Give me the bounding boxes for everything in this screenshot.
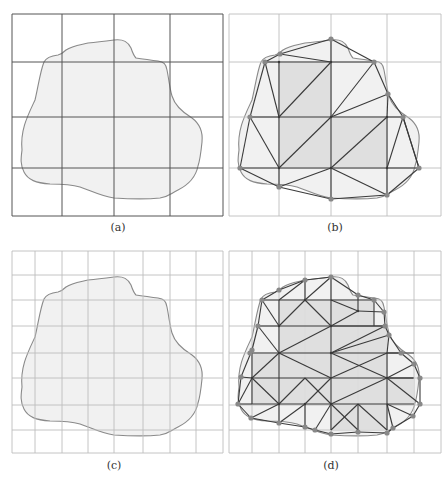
grid-node <box>278 325 280 327</box>
boundary-node <box>235 401 240 406</box>
boundary-node <box>276 184 281 189</box>
panel-c-quadtree-grid <box>12 251 223 453</box>
boundary-node <box>277 51 282 56</box>
boundary-node <box>417 375 422 380</box>
boundary-node <box>411 361 416 366</box>
boundary-node <box>302 424 307 429</box>
boundary-node <box>371 297 376 302</box>
boundary-node <box>371 59 376 64</box>
caption-a: (a) <box>110 221 125 234</box>
grid-node <box>251 377 253 379</box>
grid-node <box>330 116 332 118</box>
boundary-node <box>259 297 264 302</box>
panel-a-background-grid <box>12 14 223 216</box>
boundary-node <box>255 323 260 328</box>
domain-shape <box>21 277 202 436</box>
boundary-node <box>328 36 333 41</box>
boundary-node <box>312 427 317 432</box>
grid-node <box>278 167 280 169</box>
boundary-node <box>417 401 422 406</box>
interior-cell <box>252 353 387 378</box>
caption-c: (c) <box>107 459 122 472</box>
grid-node <box>330 167 332 169</box>
boundary-node <box>238 374 243 379</box>
boundary-node <box>276 420 281 425</box>
boundary-node <box>386 332 391 337</box>
boundary-node <box>355 429 360 434</box>
boundary-node <box>355 292 360 297</box>
grid-node <box>386 377 388 379</box>
grid-node <box>330 61 332 63</box>
grid-node <box>386 167 388 169</box>
interior-cell <box>331 405 387 430</box>
boundary-node <box>382 323 387 328</box>
boundary-node <box>410 413 415 418</box>
boundary-node <box>262 59 267 64</box>
grid-node <box>278 116 280 118</box>
boundary-node <box>276 287 281 292</box>
boundary-node <box>247 350 252 355</box>
boundary-node <box>381 309 386 314</box>
grid-node <box>278 403 280 405</box>
boundary-node <box>390 425 395 430</box>
grid-node <box>304 299 306 301</box>
grid-node <box>357 310 359 312</box>
boundary-node <box>400 114 405 119</box>
grid-node <box>304 403 306 405</box>
boundary-node <box>328 196 333 201</box>
boundary-node <box>385 91 390 96</box>
grid-node <box>386 116 388 118</box>
boundary-node <box>247 114 252 119</box>
boundary-node <box>384 192 389 197</box>
boundary-node <box>302 277 307 282</box>
figure: (a) (b) (c) (d) <box>0 0 447 480</box>
boundary-node <box>248 415 253 420</box>
boundary-node <box>416 165 421 170</box>
grid-node <box>330 352 332 354</box>
boundary-node <box>328 431 333 436</box>
boundary-node <box>398 350 403 355</box>
grid-node <box>330 403 332 405</box>
caption-d: (d) <box>323 459 339 472</box>
panel-b-mesh <box>229 14 441 216</box>
boundary-node <box>237 165 242 170</box>
panel-d-refined-mesh <box>229 251 441 453</box>
grid-node <box>330 325 332 327</box>
domain-shape <box>21 40 202 199</box>
boundary-node <box>384 430 389 435</box>
boundary-node <box>328 274 333 279</box>
grid-node <box>278 61 280 63</box>
caption-b: (b) <box>327 221 343 234</box>
